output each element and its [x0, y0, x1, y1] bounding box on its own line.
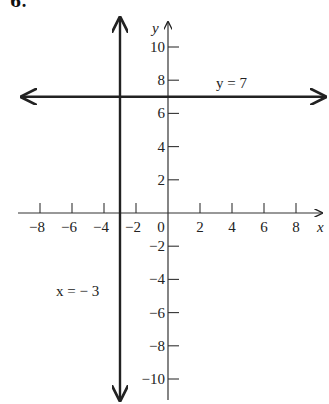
- y-tick-label: 8: [158, 72, 166, 88]
- graphed-lines: [22, 18, 325, 400]
- y-tick-label: −8: [149, 338, 165, 354]
- y-tick-label: 6: [158, 105, 166, 121]
- y-tick-label: −6: [149, 305, 165, 321]
- x-tick-label: 0: [157, 219, 165, 235]
- y-tick-label: 10: [150, 39, 165, 55]
- x-tick-label: 2: [196, 219, 204, 235]
- y-tick-label: −10: [142, 371, 165, 387]
- coordinate-plane: −8−6−4−202468x 108642−2−4−6−8−10y y = 7x…: [0, 0, 329, 404]
- y-axis: 108642−2−4−6−8−10y: [142, 20, 179, 400]
- x-tick-label: 6: [260, 219, 268, 235]
- x-tick-label: −2: [125, 219, 141, 235]
- x-tick-label: −6: [61, 219, 77, 235]
- x-tick-label: 8: [292, 219, 300, 235]
- line-labels: y = 7x = − 3: [56, 75, 247, 299]
- x-axis: −8−6−4−202468x: [18, 203, 324, 235]
- x-tick-label: 4: [228, 219, 236, 235]
- y-tick-label: −4: [149, 271, 165, 287]
- label-y-equals-7: y = 7: [216, 75, 247, 91]
- y-tick-label: 4: [158, 139, 166, 155]
- y-tick-label: 2: [158, 172, 166, 188]
- label-x-equals-neg3: x = − 3: [56, 283, 99, 299]
- y-axis-label: y: [150, 20, 159, 36]
- y-tick-label: −2: [149, 238, 165, 254]
- x-tick-label: −8: [29, 219, 45, 235]
- x-tick-label: −4: [93, 219, 109, 235]
- x-axis-label: x: [316, 219, 324, 235]
